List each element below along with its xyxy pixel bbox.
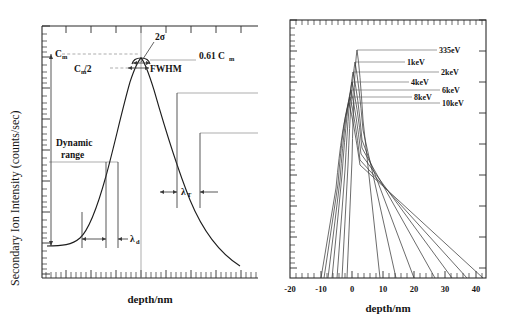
fraction-peak-label: 0.61 C	[199, 51, 225, 61]
two-sigma-label: 2σ	[155, 32, 166, 42]
curve-label-2keV: 2keV	[441, 68, 459, 77]
curve-label-6keV: 6keV	[442, 86, 460, 95]
curve-label-4keV: 4keV	[411, 78, 429, 87]
curve-label-10keV: 10keV	[442, 99, 464, 108]
cm-half-annotation: C m /2	[74, 64, 92, 75]
x-tick-label-1: -10	[315, 284, 326, 294]
right-y-ticks-mirror	[479, 20, 486, 268]
dynamic-range-annotation: Dynamic range	[49, 54, 92, 246]
left-y-axis-label: Secondary Ion Intensity (counts/sec)	[8, 110, 22, 286]
lambda-d-annotation: λ d	[82, 162, 140, 248]
left-y-ticks	[42, 26, 50, 274]
lambda-d-label: λ	[130, 234, 135, 244]
x-tick-label-4: 20	[410, 284, 419, 294]
fwhm-label: FWHM	[150, 64, 182, 74]
x-tick-label-6: 40	[472, 284, 481, 294]
cm-half-label-divisor: /2	[83, 64, 92, 74]
right-top-ticks	[296, 20, 482, 25]
x-tick-label-5: 30	[441, 284, 450, 294]
left-x-axis-label: depth/nm	[127, 293, 172, 305]
fraction-peak-annotation: 0.61 C m	[199, 51, 235, 62]
fraction-peak-label-subscript: m	[229, 55, 235, 62]
lambda-t-annotation: λ T	[160, 93, 218, 208]
left-top-ticks	[66, 26, 241, 33]
right-x-axis-label: depth/nm	[365, 302, 410, 314]
curve-label-8keV: 8keV	[414, 93, 432, 102]
x-tick-label-0: -20	[284, 284, 295, 294]
energy-profile-curves	[321, 50, 483, 278]
dynamic-range-label-line1: Dynamic	[56, 138, 92, 148]
left-x-ticks	[46, 270, 256, 278]
right-panel-energy-profiles: 335eV 1keV 2keV 4keV 6keV 8keV 10keV -20…	[262, 0, 509, 335]
cm-half-label: C	[74, 64, 81, 74]
cm-label-subscript: m	[62, 53, 68, 60]
curve-label-335eV: 335eV	[439, 46, 461, 55]
x-tick-label-3: 10	[379, 284, 388, 294]
curve-label-1keV: 1keV	[407, 58, 425, 67]
cm-label: C	[55, 49, 62, 59]
energy-curve-10keV	[321, 103, 483, 278]
left-panel-schematic-profile: Secondary Ion Intensity (counts/sec)	[0, 0, 262, 335]
right-plot-frame	[290, 20, 486, 278]
right-y-ticks	[290, 20, 297, 268]
lambda-t-label-subscript: T	[187, 191, 192, 198]
right-panel-svg: 335eV 1keV 2keV 4keV 6keV 8keV 10keV -20…	[262, 0, 509, 335]
left-panel-svg: Secondary Ion Intensity (counts/sec)	[0, 0, 262, 335]
dynamic-range-label-line2: range	[61, 150, 84, 160]
lambda-d-label-subscript: d	[136, 238, 140, 245]
lambda-t-label: λ	[181, 187, 186, 197]
right-x-tick-labels: -20 -10 0 10 20 30 40	[284, 284, 480, 294]
x-tick-label-2: 0	[350, 284, 354, 294]
cm-annotation: C m	[55, 49, 68, 60]
energy-curve-labels: 335eV 1keV 2keV 4keV 6keV 8keV 10keV	[349, 46, 464, 108]
figure-root: Secondary Ion Intensity (counts/sec)	[0, 0, 509, 335]
